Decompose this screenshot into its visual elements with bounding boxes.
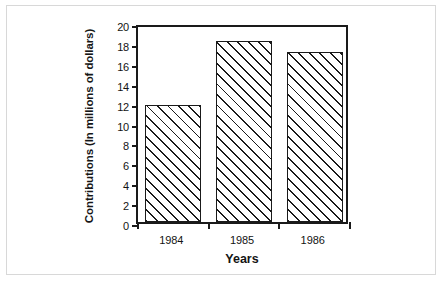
- bar-1986: [287, 52, 343, 222]
- y-tick-label: 10: [109, 121, 129, 133]
- y-tick-mark: [132, 145, 138, 147]
- y-tick-label: 4: [109, 180, 129, 192]
- y-tick-mark: [132, 205, 138, 207]
- y-tick-mark: [132, 66, 138, 68]
- y-tick: 10: [109, 121, 138, 133]
- x-tick-mark: [137, 222, 139, 229]
- y-tick: 14: [109, 81, 138, 93]
- plot-frame: 02468101214161820: [136, 25, 348, 224]
- y-tick-mark: [132, 106, 138, 108]
- y-tick-label: 14: [109, 81, 129, 93]
- y-tick-label: 0: [109, 220, 129, 232]
- x-tick-label-1985: 1985: [230, 234, 254, 246]
- x-tick-mark: [208, 222, 210, 229]
- y-tick-mark: [132, 86, 138, 88]
- y-tick-mark: [132, 46, 138, 48]
- y-tick: 4: [109, 180, 138, 192]
- x-axis-title: Years: [136, 252, 348, 266]
- y-tick: 18: [109, 41, 138, 53]
- y-tick: 8: [109, 140, 138, 152]
- y-axis-title: Contributions (In millions of dollars): [83, 11, 95, 241]
- y-tick: 20: [109, 21, 138, 33]
- y-tick-mark: [132, 126, 138, 128]
- y-tick: 6: [109, 160, 138, 172]
- y-tick-label: 12: [109, 101, 129, 113]
- bar-1984: [145, 105, 201, 222]
- y-tick-label: 8: [109, 140, 129, 152]
- y-tick: 12: [109, 101, 138, 113]
- scanned-chart-page: Contributions (In millions of dollars) 0…: [0, 0, 442, 281]
- x-tick-mark: [349, 222, 351, 229]
- y-tick-label: 6: [109, 160, 129, 172]
- y-tick-mark: [132, 185, 138, 187]
- y-tick-label: 18: [109, 41, 129, 53]
- y-tick: 2: [109, 200, 138, 212]
- y-tick-label: 16: [109, 61, 129, 73]
- y-tick: 0: [109, 220, 138, 232]
- y-tick-mark: [132, 26, 138, 28]
- y-tick-label: 2: [109, 200, 129, 212]
- x-tick-mark: [278, 222, 280, 229]
- x-tick-label-1984: 1984: [159, 234, 183, 246]
- y-tick-label: 20: [109, 21, 129, 33]
- y-tick: 16: [109, 61, 138, 73]
- x-tick-label-1986: 1986: [301, 234, 325, 246]
- bar-chart: Contributions (In millions of dollars) 0…: [0, 0, 442, 281]
- y-tick-mark: [132, 165, 138, 167]
- bar-1985: [216, 41, 272, 222]
